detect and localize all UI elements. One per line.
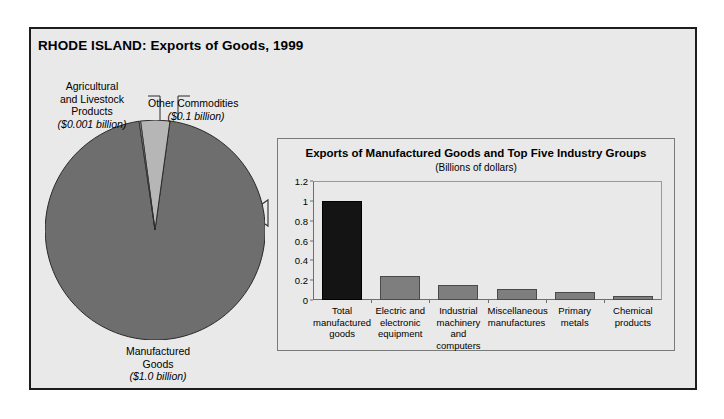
pie-label-other-value: ($0.1 billion) (148, 110, 266, 123)
x-tick-mark (371, 300, 372, 303)
y-tick-mark (310, 260, 313, 261)
y-tick-mark (310, 181, 313, 182)
x-axis-label-line: goods (313, 328, 371, 340)
bar-plot-area: 00.20.40.60.811.2 Totalmanufacturedgoods… (313, 181, 662, 300)
x-axis-label-line: manufactures (488, 317, 546, 329)
y-tick-label: 0.2 (295, 275, 308, 286)
figure-title: RHODE ISLAND: Exports of Goods, 1999 (38, 38, 303, 53)
bar (438, 285, 478, 300)
x-axis-label-line: Electric and (371, 305, 429, 317)
pie-label-other-line1: Other Commodities (148, 97, 266, 110)
x-axis-label: Miscellaneousmanufactures (488, 305, 546, 328)
y-tick-mark (310, 200, 313, 201)
figure-root: RHODE ISLAND: Exports of Goods, 1999 Agr… (0, 0, 724, 419)
x-tick-mark (546, 300, 547, 303)
x-axis-label: Chemicalproducts (604, 305, 662, 328)
x-axis-label: Totalmanufacturedgoods (313, 305, 371, 340)
x-axis-label-line: products (604, 317, 662, 329)
y-tick-label: 0.8 (295, 215, 308, 226)
x-axis-label: Industrialmachinery andcomputers (429, 305, 487, 351)
bar (613, 296, 653, 300)
x-axis-label-line: equipment (371, 328, 429, 340)
x-axis-label-line: Chemical (604, 305, 662, 317)
x-axis-label-line: Miscellaneous (488, 305, 546, 317)
x-axis-label-line: machinery and (429, 317, 487, 340)
pie-label-other-commodities: Other Commodities ($0.1 billion) (148, 97, 266, 122)
x-axis-label-line: manufactured (313, 317, 371, 329)
y-tick-label: 0.4 (295, 255, 308, 266)
bar (497, 289, 537, 300)
y-tick-label: 1 (303, 195, 308, 206)
pie-label-manufactured-value: ($1.0 billion) (88, 370, 228, 383)
plot-frame (313, 181, 662, 300)
pie-chart (45, 120, 265, 340)
y-tick-mark (310, 220, 313, 221)
pie-label-agricultural-line3: Products (36, 105, 148, 118)
y-tick-mark (310, 240, 313, 241)
pie-label-agricultural: Agricultural and Livestock Products ($0.… (36, 80, 148, 130)
y-tick-mark (310, 280, 313, 281)
pie-label-manufactured-line2: Goods (88, 358, 228, 371)
y-tick-label: 0 (303, 295, 308, 306)
pie-label-agricultural-line2: and Livestock (36, 93, 148, 106)
pie-label-manufactured-line1: Manufactured (88, 345, 228, 358)
x-tick-mark (488, 300, 489, 303)
y-tick-label: 1.2 (295, 176, 308, 187)
x-axis-label-line: Primary (546, 305, 604, 317)
x-axis-label-line: metals (546, 317, 604, 329)
bar (555, 292, 595, 300)
x-axis-label-line: electronic (371, 317, 429, 329)
y-tick-mark (310, 300, 313, 301)
bar (380, 276, 420, 300)
bar (322, 201, 362, 300)
bar-chart-title: Exports of Manufactured Goods and Top Fi… (278, 147, 674, 159)
x-axis-label-line: computers (429, 340, 487, 352)
pie-label-agricultural-value: ($0.001 billion) (36, 118, 148, 131)
x-axis-label-line: Industrial (429, 305, 487, 317)
y-tick-label: 0.6 (295, 235, 308, 246)
x-axis-label: Electric andelectronicequipment (371, 305, 429, 340)
x-axis-label-line: Total (313, 305, 371, 317)
pie-label-manufactured: Manufactured Goods ($1.0 billion) (88, 345, 228, 383)
bar-chart-subtitle: (Billions of dollars) (278, 162, 674, 173)
x-axis-label: Primarymetals (546, 305, 604, 328)
pie-label-agricultural-line1: Agricultural (36, 80, 148, 93)
x-tick-mark (604, 300, 605, 303)
x-tick-mark (429, 300, 430, 303)
plot-right-edge (661, 181, 662, 300)
pie-svg (45, 120, 265, 340)
bar-chart-panel: Exports of Manufactured Goods and Top Fi… (277, 138, 675, 351)
